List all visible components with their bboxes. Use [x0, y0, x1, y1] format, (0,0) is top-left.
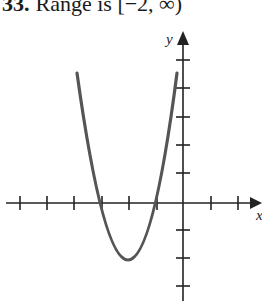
y-axis-arrow-icon [177, 31, 189, 45]
y-axis [176, 42, 190, 301]
parabola-graph: y x [0, 0, 262, 307]
y-axis-label: y [164, 31, 173, 47]
x-axis [6, 196, 252, 210]
x-axis-label: x [255, 207, 262, 223]
parabola-curve [77, 73, 177, 260]
